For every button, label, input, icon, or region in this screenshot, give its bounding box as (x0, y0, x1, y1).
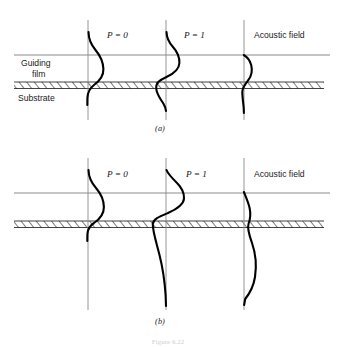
panel-a-label-p0: P = 0 (106, 30, 128, 40)
panel-b-caption: (b) (155, 317, 165, 326)
label-substrate: Substrate (18, 93, 55, 103)
panel-b-label-p0: P = 0 (106, 169, 128, 179)
panel-b: P = 0 P = 1 Acoustic field (b) (14, 158, 330, 326)
panel-a-mode-p1-curve (156, 32, 179, 111)
panel-b-substrate-hatch (14, 221, 324, 228)
panel-a-label-acoustic-field: Acoustic field (254, 30, 305, 40)
figure-container: P = 0 P = 1 Acoustic field Guiding film … (0, 0, 338, 347)
label-guiding-film-line2: film (32, 69, 45, 79)
panel-b-label-acoustic-field: Acoustic field (254, 169, 305, 179)
panel-b-acoustic-field-curve (244, 192, 256, 305)
figure-caption: Figure 6.22 (152, 338, 185, 346)
acoustic-field-diagram: P = 0 P = 1 Acoustic field Guiding film … (0, 0, 338, 347)
panel-b-mode-p1-curve (153, 170, 184, 306)
panel-b-mode-p0-curve (87, 170, 104, 241)
panel-a: P = 0 P = 1 Acoustic field Guiding film … (14, 20, 330, 133)
panel-a-label-p1: P = 1 (183, 30, 205, 40)
panel-a-mode-p0-curve (87, 32, 103, 105)
panel-b-label-p1: P = 1 (185, 169, 207, 179)
panel-a-caption: (a) (155, 124, 165, 133)
label-guiding-film-line1: Guiding (21, 58, 51, 68)
panel-a-substrate-hatch (14, 82, 324, 89)
